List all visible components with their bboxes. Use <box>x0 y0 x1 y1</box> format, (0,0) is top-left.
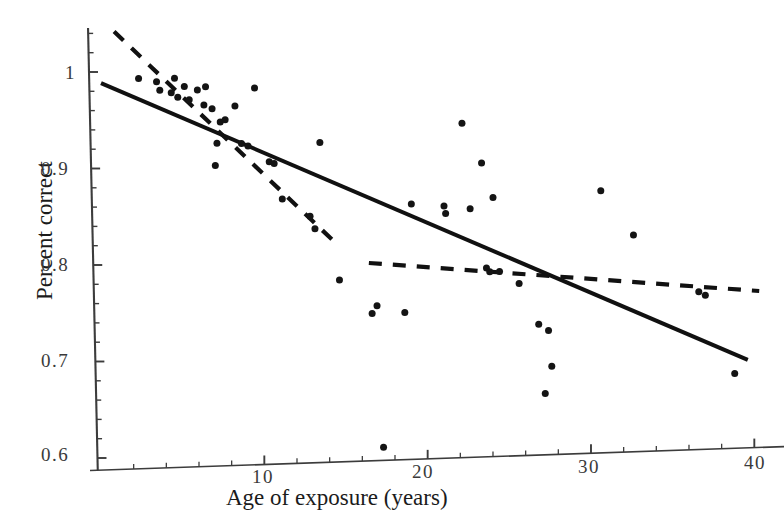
data-point <box>467 205 474 212</box>
data-point <box>478 160 485 167</box>
data-point <box>369 310 376 317</box>
y-tick-label-1: 1 <box>65 62 76 84</box>
data-point <box>238 140 245 147</box>
data-point <box>212 162 219 169</box>
fit-line-layer <box>101 32 759 360</box>
y-axis-title: Percent correct <box>32 161 58 300</box>
data-point <box>545 327 552 334</box>
data-point <box>307 213 314 220</box>
y-axis-spine <box>88 28 98 470</box>
data-point <box>702 292 709 299</box>
data-point <box>516 280 523 287</box>
x-axis-baseline <box>90 447 784 471</box>
data-point <box>458 120 465 127</box>
data-point <box>251 84 258 91</box>
x-tick-label-10: 10 <box>252 466 274 488</box>
data-point <box>731 370 738 377</box>
data-point <box>222 116 229 123</box>
data-point <box>209 105 216 112</box>
data-point <box>486 268 493 275</box>
data-point <box>213 140 220 147</box>
data-point <box>408 201 415 208</box>
data-point <box>153 78 160 85</box>
data-point <box>244 143 251 150</box>
data-point <box>401 309 408 316</box>
y-tick-label-0-9: 0.9 <box>41 158 69 180</box>
data-point <box>156 87 163 94</box>
data-point <box>440 202 447 209</box>
x-axis-title: Age of exposure (years) <box>226 485 448 511</box>
x-tick-label-30: 30 <box>578 456 600 478</box>
x-tick-label-40: 40 <box>744 452 766 474</box>
data-point <box>174 94 181 101</box>
figure-root: Percent correct Age of exposure (years) … <box>0 0 784 528</box>
scatter-plot-svg <box>0 0 784 528</box>
data-point <box>271 160 278 167</box>
data-point <box>496 268 503 275</box>
data-point <box>135 75 142 82</box>
data-point <box>181 83 188 90</box>
data-point <box>380 444 387 451</box>
data-point <box>442 210 449 217</box>
data-point <box>202 83 209 90</box>
data-point <box>186 96 193 103</box>
data-point <box>171 75 178 82</box>
data-point <box>630 232 637 239</box>
data-point <box>548 363 555 370</box>
data-point <box>542 390 549 397</box>
data-point <box>316 139 323 146</box>
data-point <box>200 102 207 109</box>
data-point <box>336 276 343 283</box>
data-point <box>279 195 286 202</box>
data-point <box>194 86 201 93</box>
dashed-fit-line-2 <box>369 263 759 291</box>
data-points-layer <box>135 75 738 451</box>
data-point <box>535 321 542 328</box>
axis-layer <box>88 28 784 471</box>
data-point <box>311 225 318 232</box>
dashed-fit-line-1 <box>114 32 334 242</box>
x-tick-label-20: 20 <box>412 461 434 483</box>
data-point <box>231 102 238 109</box>
data-point <box>597 187 604 194</box>
y-tick-label-0-8: 0.8 <box>41 254 69 276</box>
solid-fit-line <box>101 83 748 360</box>
data-point <box>168 89 175 96</box>
data-point <box>374 302 381 309</box>
data-point <box>695 288 702 295</box>
y-tick-label-0-6: 0.6 <box>41 444 69 466</box>
y-tick-label-0-7: 0.7 <box>41 350 69 372</box>
data-point <box>489 194 496 201</box>
